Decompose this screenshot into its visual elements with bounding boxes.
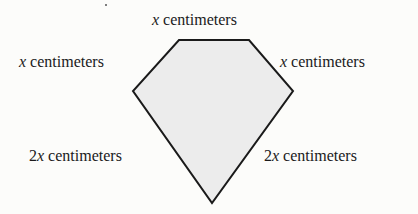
pentagon-shape	[133, 40, 293, 203]
label-top-side: x centimeters	[152, 12, 237, 28]
label-lower-left-side: 2x centimeters	[29, 148, 122, 164]
label-upper-left-side: x centimeters	[19, 54, 104, 70]
pentagon-figure	[0, 0, 418, 214]
label-upper-right-side: x centimeters	[280, 54, 365, 70]
label-lower-right-side: 2x centimeters	[264, 148, 357, 164]
